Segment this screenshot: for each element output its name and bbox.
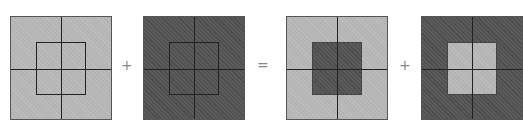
- horizontal-axis-line: [287, 69, 387, 70]
- vertical-axis-line: [472, 17, 473, 119]
- equals-operator: =: [257, 58, 269, 72]
- square-3-light-dark-center: [286, 16, 388, 120]
- plus-operator-2: +: [399, 58, 411, 72]
- plus-operator-1: +: [121, 58, 133, 72]
- vertical-axis-line: [61, 17, 62, 119]
- horizontal-axis-line: [422, 69, 522, 70]
- horizontal-axis-line: [144, 69, 244, 70]
- horizontal-axis-line: [11, 69, 111, 70]
- square-1-light: [10, 16, 112, 120]
- vertical-axis-line: [194, 17, 195, 119]
- square-4-dark-light-center: [421, 16, 523, 120]
- square-2-dark: [143, 16, 245, 120]
- vertical-axis-line: [337, 17, 338, 119]
